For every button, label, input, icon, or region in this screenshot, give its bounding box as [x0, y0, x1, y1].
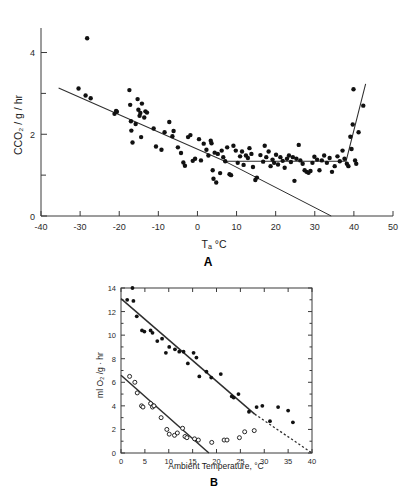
panel-a-data-point [199, 158, 203, 162]
panel-b-lower-regression [121, 375, 209, 453]
panel-a-data-point [154, 144, 158, 148]
panel-a-data-point [272, 161, 276, 165]
panel-a-x-ticklabel: 50 [388, 222, 398, 232]
panel-a-data-point [115, 110, 119, 114]
panel-a-data-point [247, 146, 251, 150]
panel-a-data-point [171, 129, 175, 133]
panel-a-data-point [333, 164, 337, 168]
panel-b-y-ticklabel: 0 [112, 449, 116, 458]
panel-a-data-point [193, 157, 197, 161]
panel-a-data-point [138, 111, 142, 115]
panel-a-data-point [170, 134, 174, 138]
panel-a-data-point [266, 149, 270, 153]
panel-b-data-point-open [159, 416, 163, 420]
panel-a-data-point [325, 161, 329, 165]
panel-a-axes: -40-30-20-1001020304050024 [30, 28, 398, 232]
panel-a-data-point [145, 110, 149, 114]
panel-a-data-point [330, 170, 334, 174]
panel-b-data-points [125, 286, 294, 444]
panel-a-data-point [127, 88, 131, 92]
panel-b-y-ticklabel: 14 [108, 284, 116, 293]
panel-a-data-point [327, 156, 331, 160]
panel-a-data-point [216, 152, 220, 156]
panel-a-data-point [211, 177, 215, 181]
panel-b-data-point-filled [182, 350, 186, 354]
panel-a-data-point [315, 157, 319, 161]
panel-a-data-point [361, 103, 365, 107]
panel-a-data-point [83, 93, 87, 97]
panel-b-x-ticklabel: 40 [308, 457, 316, 466]
panel-a-data-point [300, 161, 304, 165]
panel-b-data-point-filled [192, 351, 196, 355]
panel-a-data-point [151, 126, 155, 130]
panel-a-data-point [142, 115, 146, 119]
panel-a-data-point [287, 153, 291, 157]
panel-a-data-point [356, 130, 360, 134]
panel-a-data-point [322, 153, 326, 157]
panel-a-y-ticklabel: 2 [30, 130, 35, 140]
panel-b-data-point-filled [219, 372, 223, 376]
panel-b-data-point-open [243, 430, 247, 434]
panel-b-chart: 051015202530354002468101214 ml O₂ /g · h… [0, 270, 413, 490]
panel-b-data-point-filled [209, 376, 213, 380]
panel-a-data-point [133, 122, 137, 126]
panel-a-data-point [346, 164, 350, 168]
panel-b-data-point-filled [173, 347, 177, 351]
panel-a-label: A [204, 255, 213, 269]
panel-b-y-ticklabel: 2 [112, 425, 116, 434]
panel-a-data-point [236, 161, 240, 165]
panel-b-x-ticklabel: 5 [143, 457, 147, 466]
panel-a-data-point [219, 148, 223, 152]
panel-a-data-point [255, 175, 259, 179]
panel-a-data-point [183, 164, 187, 168]
panel-b-plot-frame [121, 288, 312, 453]
panel-a-data-point [234, 148, 238, 152]
panel-a-data-point [210, 168, 214, 172]
panel-a-data-point [188, 133, 192, 137]
panel-a-data-point [204, 148, 208, 152]
panel-b-data-point-filled [135, 314, 139, 318]
panel-a-data-point [263, 144, 267, 148]
panel-b-data-point-filled [177, 350, 181, 354]
panel-a-fit-curve-line [59, 84, 366, 161]
panel-b-data-point-open [133, 380, 137, 384]
panel-b-data-point-filled [276, 405, 280, 409]
panel-a-y-ticklabel: 4 [30, 48, 35, 58]
panel-a-data-point [85, 36, 89, 40]
panel-a-data-point [223, 159, 227, 163]
panel-a-data-point [320, 158, 324, 162]
panel-b-y-axis-title: ml O₂ /g · hr [95, 352, 105, 398]
panel-a-data-point [229, 173, 233, 177]
panel-b-data-point-filled [247, 410, 251, 414]
panel-b-data-point-open [167, 432, 171, 436]
panel-a-data-point [297, 143, 301, 147]
panel-a-data-point [276, 162, 280, 166]
panel-a-data-point [76, 86, 80, 90]
panel-b-svg: 051015202530354002468101214 ml O₂ /g · h… [0, 270, 413, 490]
panel-a-data-point [238, 154, 242, 158]
panel-b-y-ticklabel: 12 [108, 308, 116, 317]
panel-a-data-point [159, 148, 163, 152]
panel-a-x-ticklabel: -40 [34, 222, 47, 232]
panel-a-data-point [197, 137, 201, 141]
figure-container: -40-30-20-1001020304050024 CCO₂ / g / hr… [0, 0, 413, 490]
panel-a-data-point [214, 180, 218, 184]
panel-a-data-point [294, 157, 298, 161]
panel-a-data-point [140, 101, 144, 105]
panel-a-data-point [258, 153, 262, 157]
panel-a-data-point [251, 165, 255, 169]
panel-a-svg: -40-30-20-1001020304050024 CCO₂ / g / hr… [0, 0, 413, 270]
panel-a-data-point [308, 169, 312, 173]
panel-a-data-point [261, 159, 265, 163]
panel-a-data-point [310, 161, 314, 165]
panel-b-x-ticklabel: 0 [119, 457, 123, 466]
panel-b-data-point-filled [197, 374, 201, 378]
panel-a-chart: -40-30-20-1001020304050024 CCO₂ / g / hr… [0, 0, 413, 270]
panel-b-data-point-filled [286, 409, 290, 413]
panel-b-data-point-filled [237, 392, 241, 396]
panel-b-data-point-filled [186, 362, 190, 366]
panel-a-data-point [340, 148, 344, 152]
panel-a-data-point [88, 96, 92, 100]
panel-b-data-point-filled [160, 337, 164, 341]
panel-b-data-point-open [165, 427, 169, 431]
